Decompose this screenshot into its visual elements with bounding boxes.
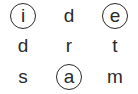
grid-cell-r1c1[interactable]: i: [8, 1, 38, 31]
grid-cell-r2c1[interactable]: d: [8, 31, 38, 61]
cell-letter: i: [21, 6, 25, 25]
letter-grid: i d e d r t s a m: [0, 0, 138, 94]
cell-letter: m: [107, 67, 123, 86]
grid-cell-r2c3[interactable]: t: [100, 31, 130, 61]
cell-letter: t: [112, 36, 117, 55]
cell-letter: s: [18, 67, 28, 86]
cell-letter: d: [18, 36, 29, 55]
cell-letter: e: [110, 6, 121, 25]
grid-cell-r3c1[interactable]: s: [8, 62, 38, 92]
grid-cell-r1c2[interactable]: d: [54, 1, 84, 31]
cell-letter: d: [64, 6, 75, 25]
grid-cell-r3c3[interactable]: m: [100, 62, 130, 92]
grid-cell-r3c2[interactable]: a: [54, 62, 84, 92]
cell-letter: a: [64, 67, 75, 86]
grid-cell-r1c3[interactable]: e: [100, 1, 130, 31]
grid-cell-r2c2[interactable]: r: [54, 31, 84, 61]
cell-letter: r: [66, 36, 72, 55]
